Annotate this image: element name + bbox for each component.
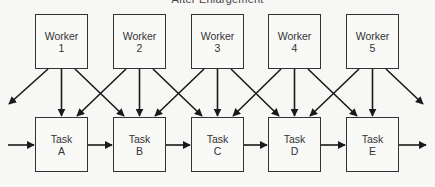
worker-id: 3 bbox=[215, 42, 221, 54]
task-id: D bbox=[291, 145, 299, 157]
worker-id: 4 bbox=[292, 42, 298, 54]
worker-box-5: Worker5 bbox=[346, 14, 399, 69]
worker-id: 5 bbox=[370, 42, 376, 54]
task-label: Task bbox=[284, 133, 306, 145]
worker-label: Worker bbox=[278, 30, 312, 42]
task-box-d: TaskD bbox=[268, 117, 321, 172]
task-label: Task bbox=[129, 133, 151, 145]
arrow-worker5-right-out bbox=[386, 69, 423, 104]
task-id: A bbox=[58, 145, 65, 157]
arrow-worker1-left-out bbox=[9, 69, 48, 104]
task-box-c: TaskC bbox=[191, 117, 244, 172]
task-box-e: TaskE bbox=[346, 117, 399, 172]
worker-label: Worker bbox=[201, 30, 235, 42]
worker-id: 1 bbox=[59, 42, 65, 54]
worker-box-1: Worker1 bbox=[35, 14, 88, 69]
arrow-worker4-left bbox=[233, 69, 281, 116]
worker-box-2: Worker2 bbox=[113, 14, 166, 69]
task-box-b: TaskB bbox=[113, 117, 166, 172]
arrow-worker1-right bbox=[75, 69, 124, 116]
arrow-worker2-left bbox=[77, 69, 126, 116]
task-label: Task bbox=[207, 133, 229, 145]
worker-label: Worker bbox=[123, 30, 157, 42]
worker-id: 2 bbox=[137, 42, 143, 54]
worker-label: Worker bbox=[45, 30, 79, 42]
task-box-a: TaskA bbox=[35, 117, 88, 172]
worker-box-3: Worker3 bbox=[191, 14, 244, 69]
arrow-worker3-left bbox=[155, 69, 204, 116]
arrow-worker3-right bbox=[231, 69, 279, 116]
arrow-worker2-right bbox=[153, 69, 202, 116]
task-label: Task bbox=[362, 133, 384, 145]
task-id: B bbox=[136, 145, 143, 157]
arrow-worker4-right bbox=[308, 69, 357, 116]
task-id: C bbox=[214, 145, 222, 157]
worker-box-4: Worker4 bbox=[268, 14, 321, 69]
worker-label: Worker bbox=[356, 30, 390, 42]
task-id: E bbox=[369, 145, 376, 157]
arrow-worker5-left bbox=[310, 69, 359, 116]
task-label: Task bbox=[51, 133, 73, 145]
